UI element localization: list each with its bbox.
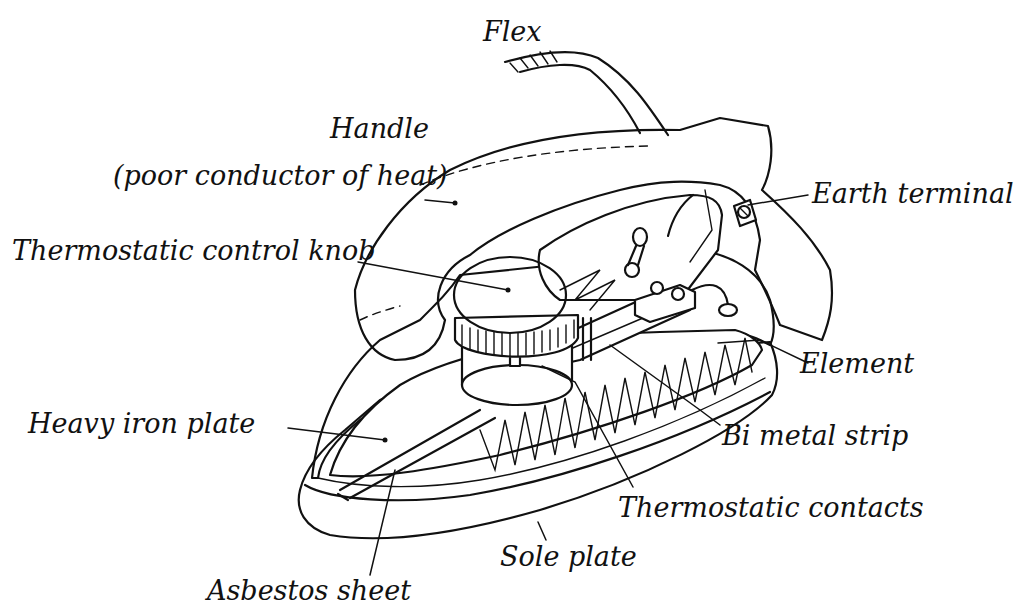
label-earth-terminal: Earth terminal: [812, 180, 1014, 207]
iron-diagram: Flex Handle (poor conductor of heat) The…: [0, 0, 1027, 615]
label-knob: Thermostatic control knob: [12, 237, 375, 264]
label-heavy-iron-plate: Heavy iron plate: [28, 410, 255, 437]
label-bimetal-strip: Bi metal strip: [722, 422, 908, 449]
label-element: Element: [800, 350, 914, 377]
label-handle: Handle: [330, 115, 429, 142]
label-flex: Flex: [483, 18, 542, 45]
label-thermostatic-contacts: Thermostatic contacts: [618, 494, 924, 521]
label-handle-note: (poor conductor of heat): [113, 162, 448, 189]
label-asbestos-sheet: Asbestos sheet: [207, 577, 411, 604]
label-sole-plate: Sole plate: [500, 543, 637, 570]
flex-cable: [505, 51, 668, 135]
